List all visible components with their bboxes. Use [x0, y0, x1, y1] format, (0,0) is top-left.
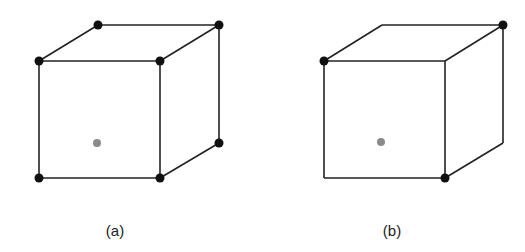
corner-atom: [320, 57, 329, 66]
corner-atom: [215, 139, 224, 148]
corner-atom: [215, 21, 224, 30]
cube-edge: [39, 25, 98, 61]
corner-atom: [499, 21, 508, 30]
cube-edge: [160, 25, 219, 61]
cube-a: [35, 21, 224, 183]
corner-atom: [94, 21, 103, 30]
cube-b: [320, 21, 508, 183]
label-b: (b): [383, 222, 401, 239]
center-atom: [93, 139, 101, 147]
cube-diagram: [0, 0, 525, 252]
cube-edge: [445, 25, 503, 61]
corner-atom: [156, 57, 165, 66]
corner-atom: [156, 174, 165, 183]
cube-edge: [445, 143, 503, 178]
label-a: (a): [106, 222, 124, 239]
corner-atom: [441, 174, 450, 183]
cube-edge: [160, 143, 219, 178]
cube-edge: [324, 25, 382, 61]
corner-atom: [35, 174, 44, 183]
corner-atom: [35, 57, 44, 66]
center-atom: [377, 138, 385, 146]
